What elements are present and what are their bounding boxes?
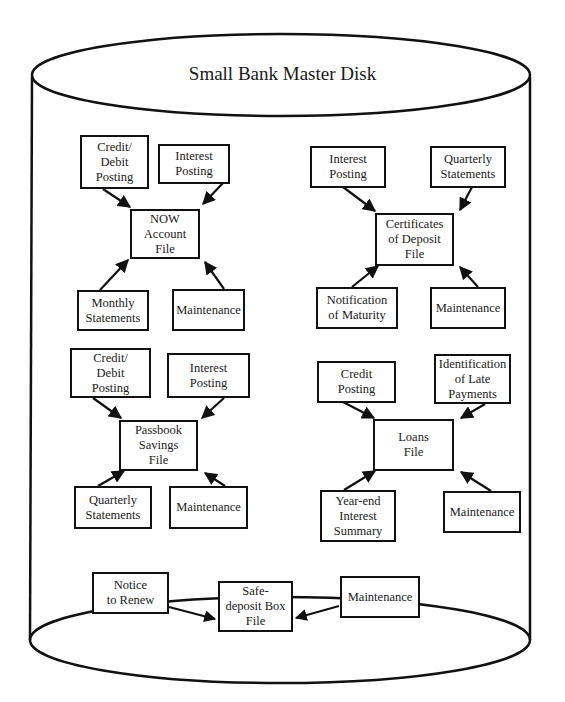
now-monthly-statements-box: Monthly Statements (77, 290, 149, 331)
cd-quarterly-statements-box: Quarterly Statements (430, 146, 506, 188)
now-interest-posting-box: Interest Posting (158, 144, 230, 184)
passbook-quarterly-statements-box: Quarterly Statements (74, 486, 152, 529)
safedeposit-box-file-box: Safe- deposit Box File (218, 581, 293, 632)
loans-identification-late-payments-box: Identification of Late Payments (434, 354, 511, 404)
now-credit-debit-posting-box: Credit/ Debit Posting (80, 135, 149, 189)
now-maintenance-box: Maintenance (172, 289, 245, 331)
cd-notification-of-maturity-box: Notification of Maturity (316, 287, 398, 329)
disk-title: Small Bank Master Disk (0, 63, 565, 85)
passbook-maintenance-box: Maintenance (169, 486, 248, 529)
passbook-savings-file-box: Passbook Savings File (119, 420, 198, 471)
cd-maintenance-box: Maintenance (430, 287, 506, 329)
passbook-interest-posting-box: Interest Posting (167, 353, 250, 398)
passbook-credit-debit-posting-box: Credit/ Debit Posting (70, 348, 151, 398)
safedeposit-notice-to-renew-box: Notice to Renew (92, 572, 169, 614)
loans-file-box: Loans File (373, 419, 454, 471)
safedeposit-maintenance-box: Maintenance (340, 576, 420, 618)
certificates-of-deposit-file-box: Certificates of Deposit File (375, 213, 454, 266)
cd-interest-posting-box: Interest Posting (310, 146, 386, 188)
loans-maintenance-box: Maintenance (443, 491, 521, 533)
now-account-file-box: NOW Account File (130, 209, 200, 259)
loans-credit-posting-box: Credit Posting (317, 361, 396, 403)
loans-year-end-interest-summary-box: Year-end Interest Summary (320, 490, 396, 542)
